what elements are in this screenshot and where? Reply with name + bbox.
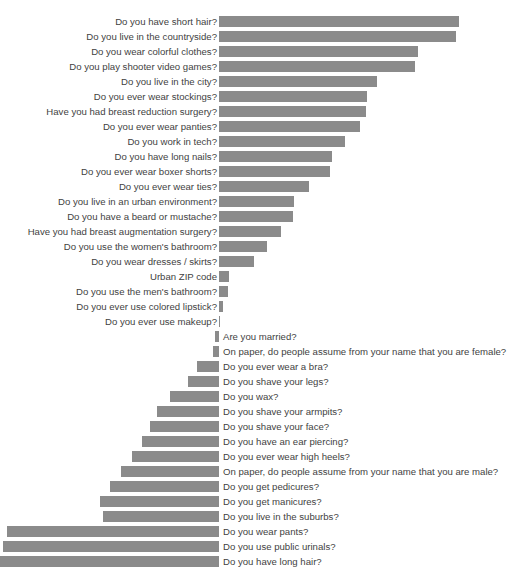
chart-title: [0, 0, 526, 10]
bar-label: Do you wear colorful clothes?: [91, 44, 217, 59]
bar: [219, 151, 332, 162]
bar-label: Are you married?: [223, 329, 297, 344]
bar-label: Do you live in an urban environment?: [58, 194, 217, 209]
bar-label: Do you have short hair?: [115, 14, 217, 29]
bar-row: Do you have long nails?: [0, 149, 526, 164]
bar-row: Do you live in the city?: [0, 74, 526, 89]
bar: [219, 106, 366, 117]
bar-label: Have you had breast augmentation surgery…: [28, 224, 217, 239]
bar: [219, 76, 377, 87]
bar-label: Do you shave your face?: [223, 419, 329, 434]
bar: [170, 391, 219, 402]
bar: [219, 91, 367, 102]
bar-row: Do you wear dresses / skirts?: [0, 254, 526, 269]
bar-label: Do you ever wear high heels?: [223, 449, 350, 464]
bar-row: Do you live in an urban environment?: [0, 194, 526, 209]
bar-row: Do you work in tech?: [0, 134, 526, 149]
bar: [219, 286, 228, 297]
bar-row: Have you had breast reduction surgery?: [0, 104, 526, 119]
bar: [188, 376, 219, 387]
bar-label: Do you use the men's bathroom?: [76, 284, 217, 299]
bar-label: Do you live in the suburbs?: [223, 509, 339, 524]
bar-row: Do you use the men's bathroom?: [0, 284, 526, 299]
bar-row: Do you ever wear ties?: [0, 179, 526, 194]
bar-row: Do you use public urinals?: [0, 539, 526, 554]
bar-row: On paper, do people assume from your nam…: [0, 464, 526, 479]
bar-label: Do you have a beard or mustache?: [67, 209, 217, 224]
bar-label: Do you use the women's bathroom?: [64, 239, 217, 254]
bar-row: Do you have short hair?: [0, 14, 526, 29]
bar-row: Do you ever use makeup?: [0, 314, 526, 329]
bar-row: Do you ever wear high heels?: [0, 449, 526, 464]
bar: [219, 301, 223, 312]
bar: [219, 211, 293, 222]
bar-label: Do you ever wear ties?: [119, 179, 217, 194]
bar: [219, 196, 294, 207]
bar-row: Do you wax?: [0, 389, 526, 404]
bar-row: Do you get manicures?: [0, 494, 526, 509]
bar-label: Do you ever wear a bra?: [223, 359, 328, 374]
bar-row: Have you had breast augmentation surgery…: [0, 224, 526, 239]
bar-row: Urban ZIP code: [0, 269, 526, 284]
bar: [121, 466, 219, 477]
bar: [219, 271, 229, 282]
bar-row: Are you married?: [0, 329, 526, 344]
bar-row: Do you use the women's bathroom?: [0, 239, 526, 254]
bar: [219, 316, 220, 327]
diverging-bar-chart: Do you have short hair?Do you live in th…: [0, 0, 526, 568]
bar-row: Do you ever wear boxer shorts?: [0, 164, 526, 179]
bar-label: Do you get pedicures?: [223, 479, 319, 494]
bar-label: Do you ever wear stockings?: [94, 89, 217, 104]
bar-row: Do you live in the countryside?: [0, 29, 526, 44]
bar-row: Do you have long hair?: [0, 554, 526, 568]
bar-label: Do you have long hair?: [223, 554, 322, 568]
bar-label: Do you shave your armpits?: [223, 404, 342, 419]
bar: [150, 421, 219, 432]
bar: [219, 241, 267, 252]
bar: [219, 31, 456, 42]
bar: [219, 61, 415, 72]
bar-label: Do you work in tech?: [127, 134, 217, 149]
bar-label: Do you ever use makeup?: [105, 314, 217, 329]
bar-label: Do you shave your legs?: [223, 374, 329, 389]
bar-row: Do you have a beard or mustache?: [0, 209, 526, 224]
bar: [219, 181, 309, 192]
bar-label: Do you ever wear panties?: [103, 119, 217, 134]
bar-row: Do you ever wear panties?: [0, 119, 526, 134]
bar-label: Do you live in the countryside?: [86, 29, 217, 44]
bar-label: On paper, do people assume from your nam…: [223, 464, 498, 479]
bar-row: Do you get pedicures?: [0, 479, 526, 494]
bar-label: Do you ever use colored lipstick?: [76, 299, 217, 314]
bar-label: On paper, do people assume from your nam…: [223, 344, 506, 359]
bar: [215, 331, 219, 342]
bar: [219, 256, 254, 267]
bar-row: Do you have an ear piercing?: [0, 434, 526, 449]
bar-row: Do you ever use colored lipstick?: [0, 299, 526, 314]
bar: [0, 556, 219, 567]
bar: [3, 541, 219, 552]
bar: [219, 16, 459, 27]
bar: [110, 481, 219, 492]
bar: [213, 346, 219, 357]
bar-row: Do you ever wear a bra?: [0, 359, 526, 374]
bar: [219, 136, 345, 147]
bar: [7, 526, 219, 537]
bar: [197, 361, 219, 372]
bar-label: Do you wear pants?: [223, 524, 308, 539]
bar: [219, 226, 281, 237]
bar-row: Do you shave your face?: [0, 419, 526, 434]
bar-row: Do you live in the suburbs?: [0, 509, 526, 524]
bar-row: Do you wear colorful clothes?: [0, 44, 526, 59]
bar-label: Do you wax?: [223, 389, 278, 404]
bar: [142, 436, 219, 447]
bar: [219, 46, 418, 57]
bar: [132, 451, 219, 462]
bar-row: On paper, do people assume from your nam…: [0, 344, 526, 359]
bar-label: Do you have long nails?: [115, 149, 217, 164]
bar-label: Urban ZIP code: [150, 269, 217, 284]
bar-label: Do you live in the city?: [121, 74, 217, 89]
bar: [219, 166, 330, 177]
bar-row: Do you ever wear stockings?: [0, 89, 526, 104]
bar-row: Do you shave your armpits?: [0, 404, 526, 419]
bar-label: Do you use public urinals?: [223, 539, 336, 554]
